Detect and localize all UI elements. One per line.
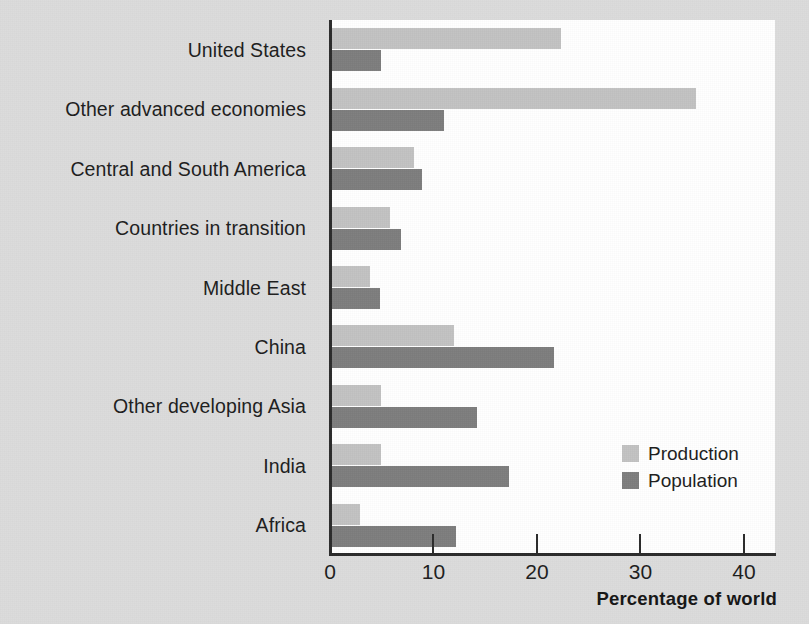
x-axis-tick <box>536 534 538 554</box>
x-axis-title: Percentage of world <box>596 588 777 610</box>
x-axis: Percentage of world 010203040 <box>0 0 809 624</box>
x-axis-tick-label: 10 <box>422 560 445 584</box>
x-axis-tick-label: 40 <box>732 560 755 584</box>
legend-label-population: Population <box>648 470 738 492</box>
x-axis-tick-label: 30 <box>629 560 652 584</box>
chart-legend: Production Population <box>622 440 739 494</box>
legend-item-population[interactable]: Population <box>622 467 739 494</box>
legend-swatch-production-icon <box>622 445 639 462</box>
x-axis-tick-label: 20 <box>525 560 548 584</box>
x-axis-tick <box>743 534 745 554</box>
legend-label-production: Production <box>648 443 739 465</box>
chart-figure: United StatesOther advanced economiesCen… <box>0 0 809 624</box>
legend-item-production[interactable]: Production <box>622 440 739 467</box>
x-axis-tick <box>432 534 434 554</box>
legend-swatch-population-icon <box>622 472 639 489</box>
x-axis-tick <box>639 534 641 554</box>
x-axis-tick-label: 0 <box>324 560 336 584</box>
